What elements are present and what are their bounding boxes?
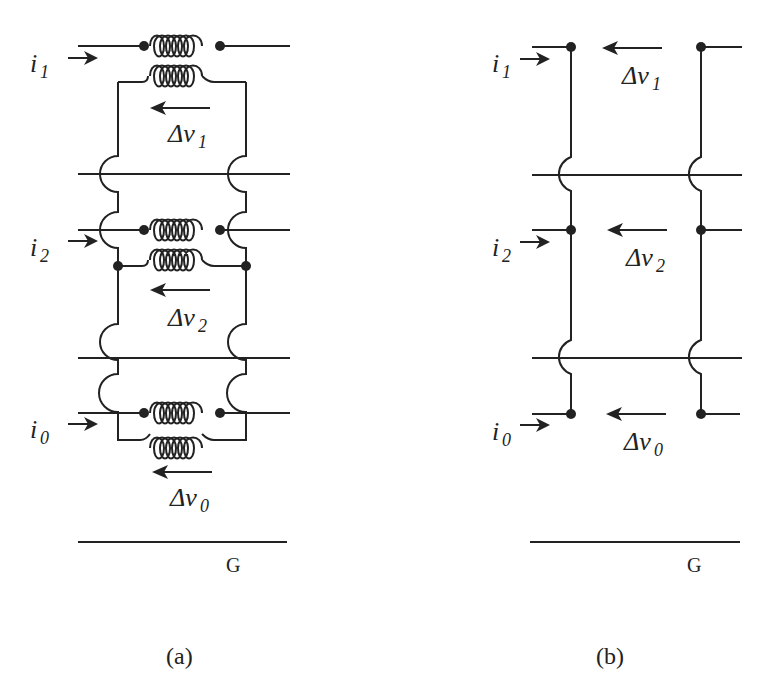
svg-text:Δv: Δv [625,243,653,272]
coil-icon [150,250,202,271]
arrow-left-icon [152,465,212,479]
svg-text:0: 0 [654,440,663,460]
voltage-label-dv2: Δv 2 [150,283,210,336]
ground-label: G [687,554,701,576]
current-label-i0: i 0 [492,417,550,450]
panel-a: G i 1 i 2 i 0 Δv 1 Δv 2 Δv [30,36,290,670]
arrow-right-icon [520,235,550,249]
arrow-left-icon [150,283,210,297]
svg-text:i: i [492,49,499,78]
current-label-i1: i 1 [492,49,550,82]
arrow-right-icon [68,417,98,431]
svg-text:Δv: Δv [169,483,197,512]
voltage-label-dv0: Δv 0 [606,407,666,460]
svg-text:1: 1 [40,62,49,82]
svg-text:1: 1 [198,132,207,152]
current-label-i2: i 2 [30,233,98,266]
caption-b: (b) [596,643,624,669]
voltage-label-dv2: Δv 2 [607,223,667,276]
arrow-left-icon [150,101,210,115]
svg-text:i: i [30,415,37,444]
arrow-right-icon [520,418,550,432]
svg-text:2: 2 [502,246,511,266]
svg-text:2: 2 [198,316,207,336]
caption-a: (a) [166,643,193,669]
svg-text:i: i [492,417,499,446]
arrow-left-icon [606,407,666,421]
svg-text:i: i [30,49,37,78]
arrow-right-icon [68,234,98,248]
arrow-right-icon [520,52,550,66]
svg-text:0: 0 [200,496,209,516]
circuit-diagram: G i 1 i 2 i 0 Δv 1 Δv 2 Δv [0,0,779,696]
svg-text:2: 2 [656,256,665,276]
current-label-i1: i 1 [30,49,98,82]
panel-b: G i 1 i 2 i 0 Δv 1 Δv 2 Δ [492,41,742,669]
ground-label: G [226,554,240,576]
svg-text:1: 1 [502,62,511,82]
svg-text:Δv: Δv [167,119,195,148]
svg-text:Δv: Δv [623,427,651,456]
svg-text:Δv: Δv [621,61,649,90]
svg-text:1: 1 [652,74,661,94]
coil-icon [150,36,202,57]
coil-icon [150,403,202,424]
svg-text:i: i [492,233,499,262]
coil-icon [150,66,202,87]
coil-icon [150,438,202,459]
current-label-i2: i 2 [492,233,550,266]
coil-icon [150,220,202,241]
arrow-left-icon [602,41,662,55]
voltage-label-dv1: Δv 1 [150,101,210,152]
phase-1-line [78,36,290,87]
voltage-label-dv1: Δv 1 [602,41,662,94]
svg-text:Δv: Δv [167,303,195,332]
svg-text:2: 2 [40,246,49,266]
svg-text:i: i [30,233,37,262]
current-label-i0: i 0 [30,415,98,448]
svg-text:0: 0 [40,428,49,448]
voltage-label-dv0: Δv 0 [152,465,212,516]
arrow-right-icon [68,51,98,65]
arrow-left-icon [607,223,667,237]
svg-text:0: 0 [502,430,511,450]
